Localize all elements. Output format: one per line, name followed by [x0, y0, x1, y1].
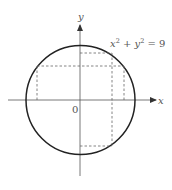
y-axis-label: y	[77, 11, 84, 22]
x-axis-label: x	[158, 95, 164, 106]
dashed-guides	[37, 53, 124, 146]
circle-diagram: y x 0 x2 + y2 = 9	[0, 0, 172, 190]
equation-label: x2 + y2 = 9	[110, 37, 165, 49]
origin-label: 0	[72, 104, 78, 115]
